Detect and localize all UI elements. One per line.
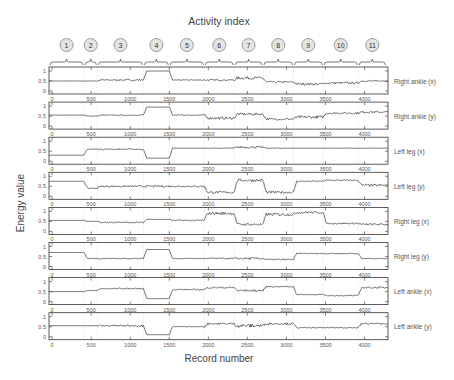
svg-text:1500: 1500: [163, 272, 175, 278]
svg-text:0.5: 0.5: [38, 78, 46, 84]
svg-text:0: 0: [43, 334, 46, 340]
svg-text:1000: 1000: [124, 131, 136, 137]
svg-text:2000: 2000: [202, 342, 214, 348]
svg-text:0: 0: [51, 272, 54, 278]
svg-text:0: 0: [43, 158, 46, 164]
brace-icon: [205, 59, 233, 65]
signal-line: [49, 71, 388, 85]
svg-text:2500: 2500: [241, 342, 253, 348]
panel-left-leg-x: 00.5105001000150020002500300035004000Lef…: [38, 137, 424, 172]
panel-right-ankle-x: 00.5105001000150020002500300035004000Rig…: [38, 67, 436, 102]
svg-text:1500: 1500: [163, 236, 175, 242]
svg-text:4000: 4000: [358, 307, 370, 313]
brace-icon: [145, 59, 169, 65]
svg-text:7: 7: [247, 42, 251, 49]
svg-text:1500: 1500: [163, 201, 175, 207]
svg-text:1: 1: [43, 103, 46, 109]
svg-text:0: 0: [43, 123, 46, 129]
svg-text:0: 0: [51, 307, 54, 313]
panel-right-leg-x: 00.5105001000150020002500300035004000Rig…: [38, 207, 429, 242]
svg-text:4000: 4000: [358, 96, 370, 102]
svg-text:500: 500: [87, 236, 96, 242]
svg-text:3000: 3000: [280, 131, 292, 137]
svg-text:0.5: 0.5: [38, 218, 46, 224]
svg-text:11: 11: [369, 42, 376, 49]
svg-text:0: 0: [51, 166, 54, 172]
series-label: Right ankle (x): [394, 78, 436, 86]
series-label: Right leg (y): [394, 253, 429, 261]
svg-text:0.5: 0.5: [38, 254, 46, 260]
svg-text:8: 8: [276, 42, 280, 49]
brace-icon: [294, 59, 322, 65]
series-label: Left ankle (x): [394, 288, 432, 296]
signal-line: [49, 107, 388, 120]
svg-text:3500: 3500: [319, 272, 331, 278]
svg-text:1500: 1500: [163, 342, 175, 348]
panel-left-ankle-x: 00.5105001000150020002500300035004000Lef…: [38, 278, 431, 313]
brace-icon: [85, 59, 96, 65]
svg-text:3500: 3500: [319, 96, 331, 102]
activity-marker-4: 4: [145, 39, 169, 66]
svg-text:3: 3: [119, 42, 123, 49]
svg-text:4000: 4000: [358, 201, 370, 207]
svg-text:0.5: 0.5: [38, 148, 46, 154]
panel-left-leg-y: 00.5105001000150020002500300035004000Lef…: [38, 172, 424, 207]
svg-text:6: 6: [217, 42, 221, 49]
svg-text:9: 9: [306, 42, 310, 49]
svg-text:2: 2: [89, 42, 93, 49]
svg-text:0: 0: [51, 342, 54, 348]
svg-text:4000: 4000: [358, 272, 370, 278]
svg-text:1: 1: [43, 244, 46, 250]
svg-text:3000: 3000: [280, 342, 292, 348]
svg-text:0: 0: [43, 88, 46, 94]
svg-text:1: 1: [43, 314, 46, 320]
chart-title-text: Activity index: [188, 15, 250, 27]
svg-text:2000: 2000: [202, 307, 214, 313]
series-label: Left leg (y): [394, 183, 425, 191]
svg-text:3000: 3000: [280, 201, 292, 207]
svg-text:1500: 1500: [163, 307, 175, 313]
svg-text:1: 1: [43, 68, 46, 74]
activity-marker-1: 1: [50, 39, 83, 66]
svg-text:2500: 2500: [241, 272, 253, 278]
svg-text:1500: 1500: [163, 166, 175, 172]
svg-text:2000: 2000: [202, 131, 214, 137]
svg-text:0: 0: [43, 193, 46, 199]
signal-line: [49, 211, 388, 225]
svg-text:500: 500: [87, 96, 96, 102]
brace-icon: [264, 59, 292, 65]
svg-text:0.5: 0.5: [38, 113, 46, 119]
svg-text:3500: 3500: [319, 166, 331, 172]
activity-marker-8: 8: [264, 39, 292, 66]
brace-icon: [50, 59, 83, 65]
y-axis-label: Energy value: [15, 173, 26, 232]
signal-line: [49, 146, 388, 158]
svg-text:5: 5: [185, 42, 189, 49]
svg-text:3000: 3000: [280, 272, 292, 278]
signal-line: [49, 286, 388, 299]
activity-marker-7: 7: [235, 39, 262, 66]
svg-text:3500: 3500: [319, 342, 331, 348]
svg-text:2500: 2500: [241, 131, 253, 137]
activity-marker-6: 6: [205, 39, 233, 66]
svg-text:1: 1: [43, 208, 46, 214]
svg-text:10: 10: [337, 42, 345, 49]
activity-marker-10: 10: [324, 39, 357, 66]
svg-text:2000: 2000: [202, 166, 214, 172]
svg-text:1000: 1000: [124, 342, 136, 348]
brace-icon: [98, 59, 142, 65]
svg-text:500: 500: [87, 166, 96, 172]
svg-text:0.5: 0.5: [38, 289, 46, 295]
svg-text:1000: 1000: [124, 96, 136, 102]
panel-right-leg-y: 00.5105001000150020002500300035004000Rig…: [38, 243, 429, 278]
panel-right-ankle-y: 00.5105001000150020002500300035004000Rig…: [38, 102, 436, 137]
svg-text:1500: 1500: [163, 96, 175, 102]
signal-line: [49, 250, 388, 261]
svg-text:1500: 1500: [163, 131, 175, 137]
svg-text:500: 500: [87, 201, 96, 207]
svg-text:2000: 2000: [202, 96, 214, 102]
svg-text:1: 1: [43, 138, 46, 144]
svg-text:4000: 4000: [358, 342, 370, 348]
svg-text:4000: 4000: [358, 131, 370, 137]
svg-text:2500: 2500: [241, 307, 253, 313]
